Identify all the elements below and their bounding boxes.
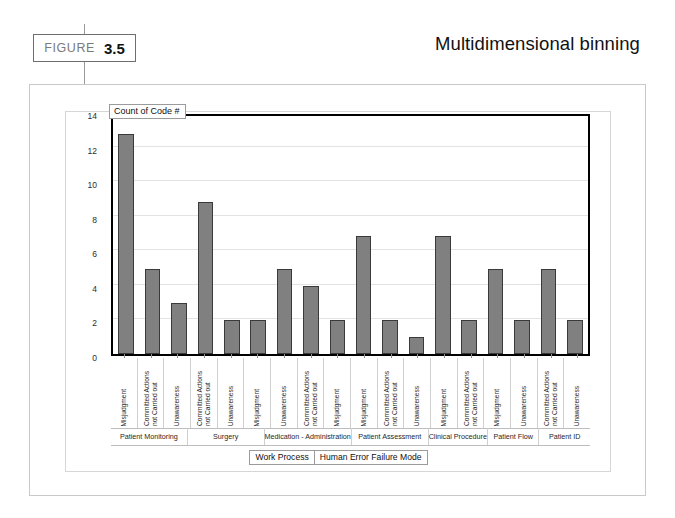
bar-slot: [324, 116, 350, 354]
tick-mark: [311, 354, 312, 358]
bar-slot: [482, 116, 508, 354]
chart-title: Count of Code #: [109, 104, 186, 119]
bar[interactable]: [198, 202, 214, 354]
bar[interactable]: [330, 320, 346, 354]
group-label: Patient ID: [539, 428, 590, 445]
tick-mark: [337, 354, 338, 358]
bar[interactable]: [224, 320, 240, 354]
category-label: Unawareness: [173, 386, 181, 426]
tick-mark: [364, 354, 365, 358]
group-label: Clinical Procedure: [429, 428, 488, 445]
group-axis-title: Work Process: [249, 450, 314, 465]
y-axis-tick-label: 8: [92, 215, 97, 225]
category-tick: Misjudgment: [484, 358, 511, 428]
category-label: Misjudgment: [360, 389, 368, 426]
y-axis-tick-label: 0: [92, 353, 97, 363]
category-tick: Unawareness: [404, 358, 431, 428]
group-axis-labels: Patient MonitoringSurgeryMedication - Ad…: [111, 428, 590, 446]
y-axis-tick-label: 14: [88, 111, 97, 121]
bar-slot: [271, 116, 297, 354]
category-label: Committed Actions not Carried out: [463, 371, 478, 426]
category-tick: Unawareness: [511, 358, 538, 428]
category-label: Unawareness: [520, 386, 528, 426]
bar[interactable]: [118, 134, 134, 354]
tick-mark: [524, 354, 525, 358]
group-label: Medication - Administration: [265, 428, 352, 445]
y-axis-tick-label: 12: [88, 146, 97, 156]
category-tick: Committed Actions not Carried out: [538, 358, 565, 428]
bar[interactable]: [250, 320, 266, 354]
tick-mark: [124, 354, 125, 358]
category-label: Unawareness: [413, 386, 421, 426]
tick-mark: [417, 354, 418, 358]
y-axis-tick-label: 2: [92, 318, 97, 328]
category-label: Committed Actions not Carried out: [143, 371, 158, 426]
bar-slot: [377, 116, 403, 354]
category-label: Committed Actions not Carried out: [303, 371, 318, 426]
category-label: Misjudgment: [120, 389, 128, 426]
bar-slot: [192, 116, 218, 354]
bar[interactable]: [435, 236, 451, 355]
tick-mark: [204, 354, 205, 358]
tick-mark: [151, 354, 152, 358]
category-label: Committed Actions not Carried out: [383, 371, 398, 426]
figure-header: FIGURE 3.5 Multidimensional binning: [0, 0, 675, 85]
category-tick: Unawareness: [164, 358, 191, 428]
bar[interactable]: [461, 320, 477, 354]
y-axis-tick-label: 4: [92, 284, 97, 294]
figure-inner-frame: Count of Code # 02468101214 MisjudgmentC…: [65, 111, 611, 472]
figure-label-box: FIGURE 3.5: [33, 34, 136, 62]
bar-slot: [430, 116, 456, 354]
bar[interactable]: [303, 286, 319, 354]
tick-mark: [177, 354, 178, 358]
plot-wrapper: [111, 114, 590, 356]
bar-slot: [403, 116, 429, 354]
x-axis-title: Human Error Failure Mode: [314, 450, 428, 465]
bar-slot: [139, 116, 165, 354]
bar[interactable]: [356, 236, 372, 355]
group-label: Surgery: [188, 428, 265, 445]
category-tick: Unawareness: [271, 358, 298, 428]
bar-slot: [219, 116, 245, 354]
category-label: Misjudgment: [493, 389, 501, 426]
bar-slot: [245, 116, 271, 354]
category-label: Misjudgment: [440, 389, 448, 426]
bar[interactable]: [145, 269, 161, 354]
category-label: Misjudgment: [333, 389, 341, 426]
y-axis-tick-label: 6: [92, 249, 97, 259]
figure-number: 3.5: [104, 40, 125, 57]
category-tick: Committed Actions not Carried out: [458, 358, 485, 428]
tick-mark: [257, 354, 258, 358]
figure-label-word: FIGURE: [44, 41, 95, 55]
bar[interactable]: [541, 269, 557, 354]
plot-area: [111, 114, 590, 356]
bar[interactable]: [488, 269, 504, 354]
category-tick: Misjudgment: [111, 358, 138, 428]
bar[interactable]: [514, 320, 530, 354]
bar[interactable]: [382, 320, 398, 354]
bar[interactable]: [567, 320, 583, 354]
bar[interactable]: [171, 303, 187, 354]
bar[interactable]: [277, 269, 293, 354]
figure-tick-top: [84, 24, 85, 34]
bar-series: [113, 116, 588, 354]
category-tick: Committed Actions not Carried out: [191, 358, 218, 428]
category-tick: Misjudgment: [244, 358, 271, 428]
category-label: Committed Actions not Carried out: [543, 371, 558, 426]
category-label: Unawareness: [227, 386, 235, 426]
category-tick: Unawareness: [564, 358, 590, 428]
figure-outer-frame: Count of Code # 02468101214 MisjudgmentC…: [29, 84, 646, 496]
bar-slot: [298, 116, 324, 354]
group-label: Patient Assessment: [352, 428, 429, 445]
bar[interactable]: [409, 337, 425, 354]
category-tick: Committed Actions not Carried out: [298, 358, 325, 428]
category-tick: Committed Actions not Carried out: [378, 358, 405, 428]
axis-title-row: Work Process Human Error Failure Mode: [66, 450, 612, 465]
category-tick: Unawareness: [218, 358, 245, 428]
category-label: Unawareness: [573, 386, 581, 426]
tick-mark: [231, 354, 232, 358]
category-axis-labels: MisjudgmentCommitted Actions not Carried…: [111, 358, 590, 429]
category-tick: Misjudgment: [324, 358, 351, 428]
category-label: Unawareness: [280, 386, 288, 426]
y-axis: 02468101214: [64, 114, 102, 356]
